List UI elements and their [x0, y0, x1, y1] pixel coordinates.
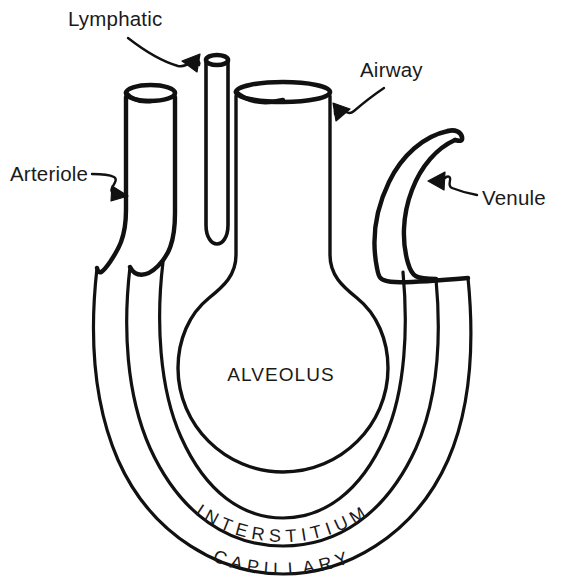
callout-lymphatic-label: Lymphatic — [68, 7, 162, 30]
callout-arteriole-label: Arteriole — [10, 162, 88, 185]
region-label-alveolus: ALVEOLUS — [227, 364, 335, 385]
diagram-canvas: Lymphatic Airway Arteriole Venule ALVEOL… — [0, 0, 564, 587]
callout-airway-label: Airway — [360, 58, 423, 81]
alveolus-diagram: Lymphatic Airway Arteriole Venule ALVEOL… — [0, 0, 564, 587]
airway-tube — [236, 82, 330, 102]
lymphatic-tube-rim — [206, 55, 228, 65]
callout-venule-label: Venule — [482, 186, 546, 209]
